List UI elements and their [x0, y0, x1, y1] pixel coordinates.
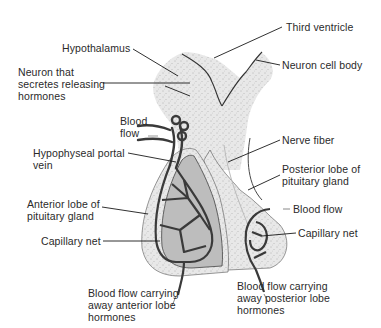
label-third-ventricle: Third ventricle: [286, 21, 353, 33]
label-neuron-cell-body: Neuron cell body: [282, 59, 362, 71]
nerve-fiber-line-2: [248, 138, 262, 200]
label-anterior-lobe: Anterior lobe of pituitary gland: [27, 198, 100, 222]
label-nerve-fiber: Nerve fiber: [282, 134, 334, 146]
label-blood-flow-top: Blood flow: [120, 115, 147, 139]
label-capillary-net-right: Capillary net: [298, 227, 358, 239]
label-posterior-lobe: Posterior lobe of pituitary gland: [282, 163, 360, 187]
label-neuron-secretes: Neuron that secretes releasing hormones: [18, 66, 105, 102]
label-blood-flow-posterior-out: Blood flow carrying away posterior lobe …: [237, 280, 330, 316]
label-capillary-net-left: Capillary net: [41, 235, 101, 247]
label-blood-flow-anterior-out: Blood flow carrying away anterior lobe h…: [88, 287, 179, 323]
label-hypothalamus: Hypothalamus: [62, 42, 130, 54]
label-blood-flow-right: Blood flow: [293, 203, 342, 215]
label-hypophyseal-portal-vein: Hypophyseal portal vein: [33, 147, 125, 171]
hypothalamus-tissue: [153, 52, 273, 170]
